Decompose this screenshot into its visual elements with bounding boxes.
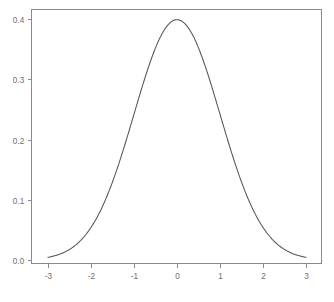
x-tick-label: -1: [131, 272, 139, 281]
y-tick-label: 0.3: [13, 76, 25, 85]
y-tick-label: 0.0: [13, 257, 25, 266]
y-tick-label: 0.2: [13, 137, 25, 146]
chart-figure: 0.00.10.20.30.4 -3-2-10123: [0, 0, 334, 302]
y-tick-label: 0.1: [13, 197, 25, 206]
x-tick-label: 0: [175, 272, 180, 281]
x-tick-label: 3: [304, 272, 309, 281]
x-tick-label: 1: [218, 272, 223, 281]
x-tick-label: -3: [45, 272, 53, 281]
normal-distribution-chart: 0.00.10.20.30.4 -3-2-10123: [0, 0, 334, 302]
x-tick-label: 2: [261, 272, 266, 281]
y-tick-label: 0.4: [13, 16, 25, 25]
x-tick-label: -2: [88, 272, 96, 281]
plot-area: [31, 9, 321, 263]
